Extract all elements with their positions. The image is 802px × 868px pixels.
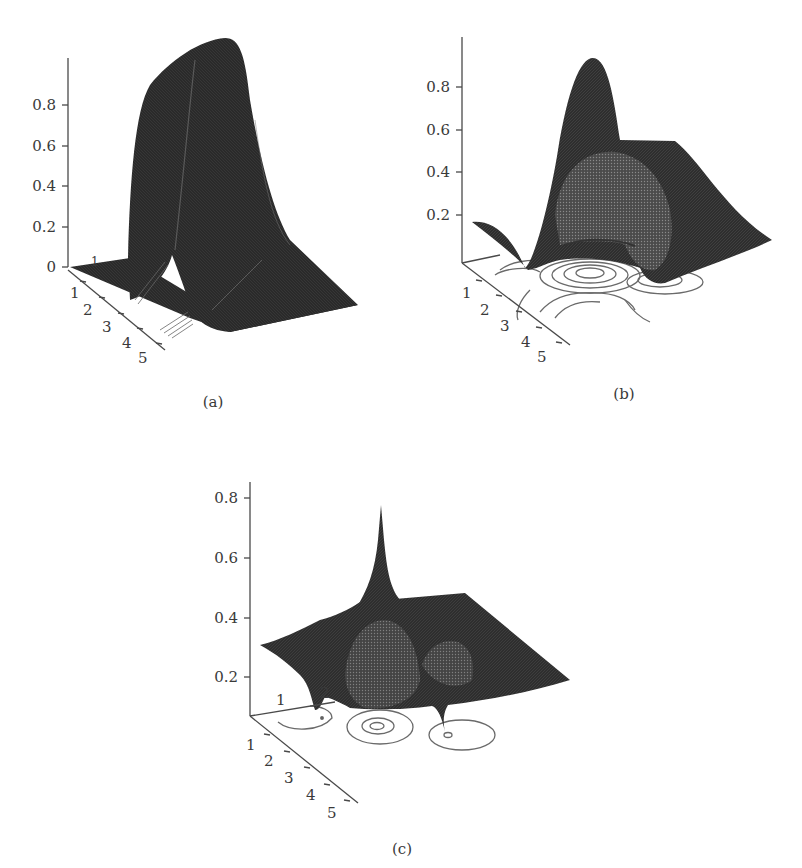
x-tick-label: 2 xyxy=(264,752,274,770)
x-tick-label: 5 xyxy=(537,348,547,366)
spike-c xyxy=(355,505,402,610)
caption-a: (a) xyxy=(193,393,233,411)
x-tick-label: 4 xyxy=(521,333,531,351)
z-tick-label: 0.8 xyxy=(32,96,56,114)
x-tick-label: 3 xyxy=(102,318,112,336)
surface-plot-c: 0.8 0.6 0.4 0.2 1 2 3 4 5 1 2 xyxy=(190,470,590,868)
z-tick-label: 0.4 xyxy=(426,163,450,181)
x-tick-label: 5 xyxy=(138,349,148,367)
caption-c: (c) xyxy=(382,840,422,858)
x-tick-label: 3 xyxy=(500,317,510,335)
x-tick-label: 5 xyxy=(327,804,337,822)
x-tick-label: 4 xyxy=(122,334,132,352)
contour-lines-c xyxy=(278,706,495,750)
z-tick-label: 0 xyxy=(46,258,56,276)
surface-plot-a: 0.8 0.6 0.4 0.2 0 1 2 3 4 5 1 xyxy=(0,0,400,420)
surface-plot-b: 0.8 0.6 0.4 0.2 1 2 3 4 5 xyxy=(400,0,802,420)
z-tick-label: 0.4 xyxy=(214,609,238,627)
panel-a: 0.8 0.6 0.4 0.2 0 1 2 3 4 5 1 (a) xyxy=(0,0,400,420)
z-tick-label: 0.2 xyxy=(214,668,238,686)
back-tick-label: 1 xyxy=(91,255,99,269)
z-tick-label: 0.4 xyxy=(32,177,56,195)
z-tick-label: 0.8 xyxy=(426,78,450,96)
x-tick-label: 2 xyxy=(480,301,490,319)
x-tick-label: 4 xyxy=(306,786,316,804)
panel-b: 0.8 0.6 0.4 0.2 1 2 3 4 5 (b) xyxy=(400,0,802,420)
z-tick-label: 0.2 xyxy=(32,218,56,236)
z-tick-label: 0.2 xyxy=(426,206,450,224)
back-tick-label: 1 xyxy=(276,691,286,709)
x-tick-label: 3 xyxy=(284,769,294,787)
x-tick-label: 1 xyxy=(70,284,80,302)
caption-b: (b) xyxy=(604,385,644,403)
panel-c: 0.8 0.6 0.4 0.2 1 2 3 4 5 1 2 (c) xyxy=(190,470,590,868)
z-tick-label: 0.6 xyxy=(32,137,56,155)
x-tick-label: 1 xyxy=(246,736,256,754)
z-tick-label: 0.8 xyxy=(214,489,238,507)
back-tick-label: 2 xyxy=(320,684,330,702)
x-tick-label: 1 xyxy=(462,284,472,302)
x-tick-label: 2 xyxy=(83,301,93,319)
z-tick-label: 0.6 xyxy=(214,549,238,567)
z-tick-label: 0.6 xyxy=(426,121,450,139)
